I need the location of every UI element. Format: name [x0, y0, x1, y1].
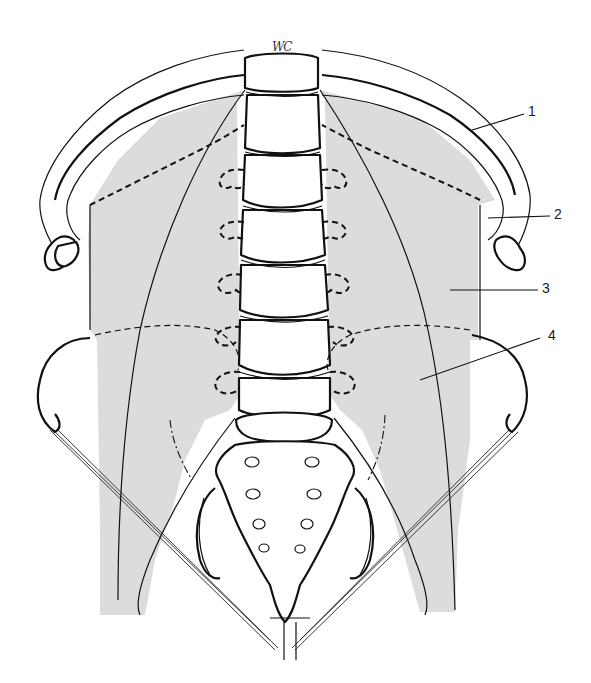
label-3: 3 — [542, 281, 550, 295]
anatomical-diagram — [0, 0, 591, 683]
lumbar-spine — [236, 54, 332, 443]
label-1: 1 — [528, 104, 536, 118]
label-2: 2 — [554, 207, 562, 221]
sacrum — [197, 441, 373, 660]
label-4: 4 — [548, 328, 556, 342]
artist-signature: WC — [272, 40, 292, 54]
